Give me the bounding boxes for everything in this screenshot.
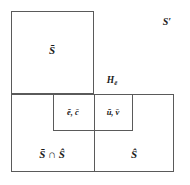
- region-outline-bottom-band: [12, 95, 174, 172]
- label-inner-left-cell: ē, c̄: [67, 108, 79, 117]
- label-inner-right-cell: ū, v̄: [107, 108, 120, 117]
- label-bottom-right-region: Ŝ: [131, 149, 137, 160]
- diagram-lines: [0, 0, 190, 185]
- label-top-left-region: S̄: [49, 45, 55, 56]
- label-universe: S′: [163, 17, 171, 27]
- region-outline-inner-box: [54, 95, 133, 131]
- hyperplane-subscript-text: ē: [114, 80, 117, 87]
- set-partition-diagram: S̄ S̄ ∩ Ŝ Ŝ ē, c̄ ū, v̄ Hē S′: [0, 0, 190, 185]
- hyperplane-base-text: H: [107, 75, 114, 85]
- label-bottom-left-region: S̄ ∩ Ŝ: [39, 149, 65, 160]
- label-hyperplane: Hē: [107, 76, 117, 87]
